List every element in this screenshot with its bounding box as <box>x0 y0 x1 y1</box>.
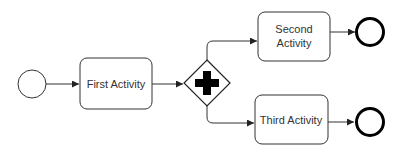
parallel-gateway[interactable] <box>184 60 230 106</box>
task-third-activity[interactable]: Third Activity <box>255 95 328 144</box>
flow-gateway-to-second[interactable] <box>207 41 257 60</box>
task-label-line-2: Activity <box>277 37 312 49</box>
end-event-bottom[interactable] <box>357 109 384 136</box>
task-first-activity[interactable]: First Activity <box>80 58 152 109</box>
end-event-top[interactable] <box>357 19 384 46</box>
task-label-line-1: Second <box>275 23 312 35</box>
flow-gateway-to-third[interactable] <box>207 106 254 123</box>
bpmn-diagram: First Activity Second Activity Third Act… <box>0 0 398 153</box>
task-label: First Activity <box>87 78 146 90</box>
task-second-activity[interactable]: Second Activity <box>258 12 330 61</box>
start-event[interactable] <box>18 70 46 98</box>
task-label: Third Activity <box>260 114 323 126</box>
